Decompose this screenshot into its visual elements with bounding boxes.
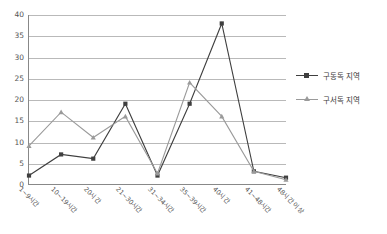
- legend-item[interactable]: 구동독 지역: [296, 64, 386, 88]
- series-line: [29, 83, 286, 180]
- data-point-marker: [27, 173, 31, 177]
- y-axis-tick: 35: [0, 32, 24, 40]
- legend-item-label: 구서독 지역: [323, 96, 360, 105]
- series-layer: [29, 15, 286, 184]
- data-point-marker: [188, 102, 192, 106]
- x-axis-tick: 35~39시간: [178, 186, 207, 215]
- line-chart: 0510152025303540 1~9시간10~19시간20시간21~30시간…: [0, 0, 387, 234]
- x-axis-tick: 1~9시간: [17, 186, 40, 209]
- legend-item[interactable]: 구서독 지역: [296, 88, 386, 112]
- y-axis-tick: 40: [0, 11, 24, 19]
- x-axis-tick: 40시간: [210, 186, 230, 206]
- y-axis-tick: 25: [0, 75, 24, 83]
- x-axis-tick: 31~34시간: [146, 186, 175, 215]
- y-axis-tick: 20: [0, 96, 24, 104]
- data-point-marker: [123, 114, 128, 119]
- x-axis-tick: 20시간: [81, 186, 101, 206]
- y-axis-tick: 10: [0, 139, 24, 147]
- y-axis-tick: 5: [0, 160, 24, 168]
- y-axis-tick: 15: [0, 117, 24, 125]
- chart-legend: 구동독 지역구서독 지역: [296, 64, 386, 112]
- data-point-marker: [187, 80, 192, 85]
- data-point-marker: [59, 152, 63, 156]
- series-line: [29, 23, 286, 177]
- data-point-marker: [91, 157, 95, 161]
- square-marker-icon: [304, 73, 309, 78]
- x-axis-tick: 21~30시간: [113, 186, 142, 215]
- plot-area: [28, 15, 286, 185]
- legend-key-icon: [296, 71, 318, 81]
- y-axis-tick: 30: [0, 54, 24, 62]
- y-axis-labels: 0510152025303540: [0, 15, 24, 185]
- triangle-marker-icon: [304, 96, 310, 101]
- x-axis-labels: 1~9시간10~19시간20시간21~30시간31~34시간35~39시간40시…: [28, 186, 286, 234]
- x-axis-tick: 41~48시간: [242, 186, 271, 215]
- x-axis-tick: 10~19시간: [49, 186, 78, 215]
- data-point-marker: [123, 102, 127, 106]
- data-point-marker: [220, 21, 224, 25]
- x-axis-tick: 48시간 이상: [275, 186, 305, 216]
- data-point-marker: [59, 110, 64, 115]
- legend-item-label: 구동독 지역: [323, 72, 360, 81]
- legend-key-icon: [296, 95, 318, 105]
